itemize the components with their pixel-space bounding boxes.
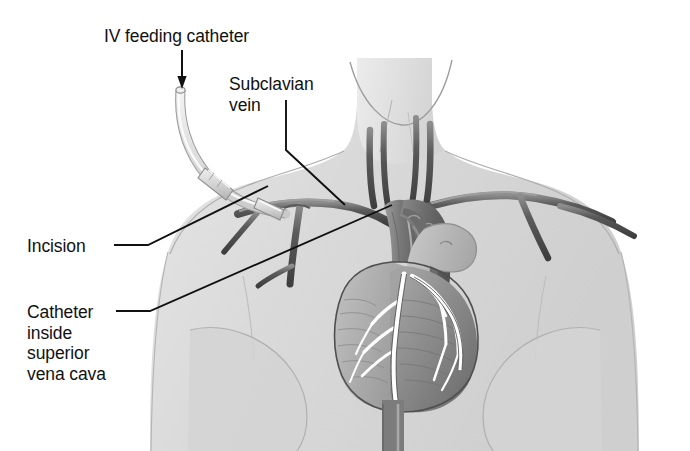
catheter-tip: [176, 87, 185, 93]
label-catheter-inside-superior-vena-cava: Catheter inside superior vena cava: [27, 302, 106, 384]
medical-illustration-figure: IV feeding catheter Subclavian vein Inci…: [0, 0, 690, 451]
inferior-vena-cava: [382, 400, 404, 451]
label-incision: Incision: [27, 236, 86, 257]
label-subclavian-vein: Subclavian vein: [229, 74, 314, 115]
label-iv-feeding-catheter: IV feeding catheter: [104, 26, 249, 47]
